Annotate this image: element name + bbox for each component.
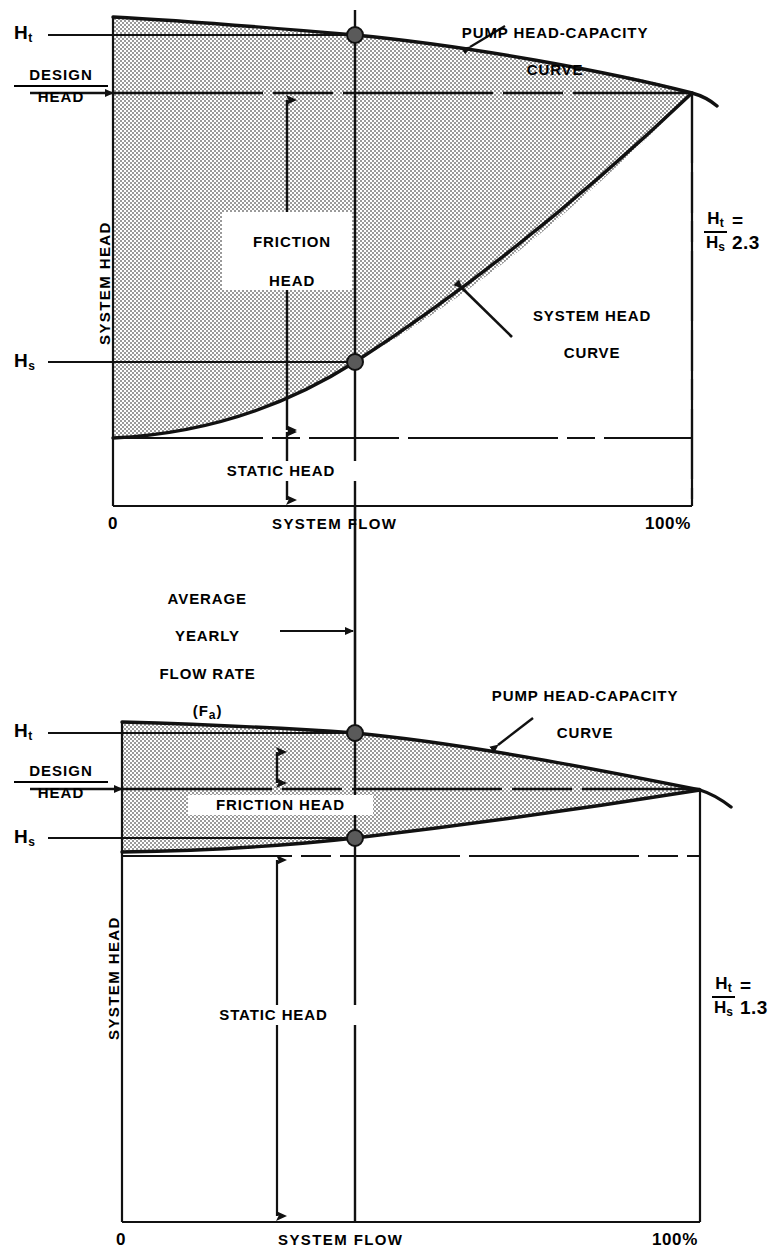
upper-shade-fill-correct <box>113 17 692 438</box>
upper-design-head-label: DESIGN HEAD <box>14 66 108 107</box>
lower-static-head-annotation: STATIC HEAD <box>186 1005 361 1025</box>
lower-operating-point-pump <box>347 725 363 741</box>
upper-operating-point-system <box>347 354 363 370</box>
upper-friction-head-annotation: FRICTION HEAD <box>222 212 352 290</box>
lower-operating-point-system <box>347 830 363 846</box>
lower-y-axis-title: SYSTEM HEAD <box>105 916 123 1040</box>
lower-ht-label: Ht <box>14 720 33 743</box>
upper-chart-group <box>30 10 717 506</box>
figure-canvas: Ht DESIGN HEAD Hs SYSTEM HEAD 0 100% SYS… <box>0 0 771 1256</box>
lower-x-axis-title: SYSTEM FLOW <box>278 1231 403 1249</box>
lower-pump-curve-annotation: PUMP HEAD-CAPACITY CURVE <box>430 668 730 743</box>
lower-chart-group <box>30 700 731 1222</box>
upper-x-axis-title: SYSTEM FLOW <box>272 515 397 533</box>
average-yearly-flow-rate-note: AVERAGE YEARLY FLOW RATE (Fa) <box>115 571 290 723</box>
upper-hs-label: Hs <box>14 350 35 373</box>
upper-x-tick-100: 100% <box>645 514 691 534</box>
lower-ratio-label: Ht Hs = 1.3 <box>712 975 771 1019</box>
middle-connector-group <box>280 506 355 700</box>
lower-friction-head-annotation: FRICTION HEAD <box>188 795 373 815</box>
upper-static-head-annotation: STATIC HEAD <box>196 461 366 481</box>
upper-ratio-label: Ht Hs = 2.3 <box>704 210 771 254</box>
lower-x-tick-100: 100% <box>652 1230 698 1250</box>
lower-x-tick-0: 0 <box>116 1230 126 1250</box>
upper-x-tick-0: 0 <box>108 514 118 534</box>
upper-system-curve-annotation: SYSTEM HEAD CURVE <box>492 288 682 363</box>
upper-y-axis-title: SYSTEM HEAD <box>96 221 114 345</box>
upper-ht-label: Ht <box>14 22 33 45</box>
lower-hs-label: Hs <box>14 826 35 849</box>
upper-pump-curve-annotation: PUMP HEAD-CAPACITY CURVE <box>400 5 700 80</box>
upper-operating-point-pump <box>347 27 363 43</box>
lower-design-head-label: DESIGN HEAD <box>14 762 108 803</box>
